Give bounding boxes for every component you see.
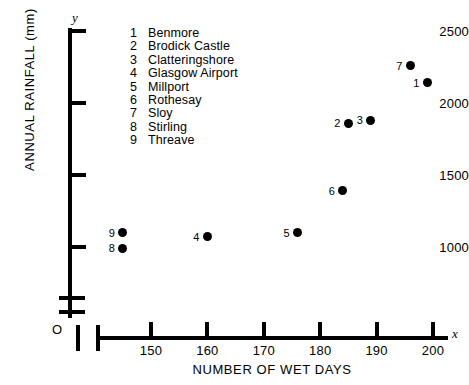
x-tick-label: 190 — [352, 343, 402, 358]
legend-item: 7Sloy — [130, 107, 238, 120]
y-axis-break-lower — [59, 310, 85, 314]
legend-item-key: 1 — [130, 27, 148, 40]
data-point-label: 3 — [357, 114, 366, 126]
legend-item-label: Rothesay — [148, 94, 202, 107]
x-tick-label: 200 — [408, 343, 458, 358]
y-axis-symbol: y — [72, 10, 78, 26]
legend-item: 8Stirling — [130, 121, 238, 134]
data-point-label: 8 — [109, 242, 118, 254]
x-tick — [318, 322, 322, 336]
y-tick — [72, 29, 86, 33]
y-tick-label: 2500 — [405, 24, 469, 39]
y-axis-break-upper — [59, 296, 85, 300]
legend-item-label: Sloy — [148, 107, 173, 120]
legend-item: 5Millport — [130, 81, 238, 94]
y-tick — [72, 173, 86, 177]
y-tick-label: 1500 — [405, 168, 469, 183]
legend-item: 2Brodick Castle — [130, 40, 238, 53]
data-point — [344, 119, 353, 128]
legend-item-label: Glasgow Airport — [148, 67, 238, 80]
origin-label: O — [52, 322, 62, 337]
x-tick — [205, 322, 209, 336]
data-point — [338, 186, 347, 195]
legend-item-label: Clatteringshore — [148, 54, 234, 67]
legend-item-key: 2 — [130, 40, 148, 53]
legend-item-key: 3 — [130, 54, 148, 67]
y-axis-label: ANNUAL RAINFALL (mm) — [22, 0, 37, 185]
legend-item-key: 7 — [130, 107, 148, 120]
data-point-label: 4 — [193, 231, 202, 243]
x-axis-symbol: x — [452, 326, 458, 342]
data-point-label: 9 — [109, 227, 118, 239]
legend-item-key: 5 — [130, 81, 148, 94]
data-point — [293, 228, 302, 237]
legend-item: 6Rothesay — [130, 94, 238, 107]
data-point-label: 5 — [284, 227, 293, 239]
data-point — [406, 61, 415, 70]
y-tick-label: 2000 — [405, 96, 469, 111]
x-axis-break-right — [96, 325, 100, 351]
legend-item: 1Benmore — [130, 27, 238, 40]
legend-item-label: Millport — [148, 81, 189, 94]
x-tick — [375, 322, 379, 336]
y-tick-label: 1000 — [405, 240, 469, 255]
legend-item-key: 4 — [130, 67, 148, 80]
x-axis-break-left — [76, 325, 80, 351]
legend-item: 9Threave — [130, 134, 238, 147]
legend-item: 4Glasgow Airport — [130, 67, 238, 80]
data-point-label: 6 — [329, 185, 338, 197]
x-tick — [262, 322, 266, 336]
x-tick-label: 150 — [126, 343, 176, 358]
x-tick-label: 160 — [182, 343, 232, 358]
data-point-label: 7 — [396, 60, 405, 72]
data-point — [203, 232, 212, 241]
data-point — [118, 244, 127, 253]
x-tick — [149, 322, 153, 336]
legend-item-key: 9 — [130, 134, 148, 147]
x-tick-label: 170 — [239, 343, 289, 358]
x-axis-line — [96, 336, 448, 340]
y-tick — [72, 245, 86, 249]
legend-item-key: 6 — [130, 94, 148, 107]
x-tick-label: 180 — [295, 343, 345, 358]
data-point-label: 1 — [413, 77, 422, 89]
data-point — [423, 78, 432, 87]
data-point — [366, 116, 375, 125]
data-point-label: 2 — [334, 117, 343, 129]
legend-item-key: 8 — [130, 121, 148, 134]
scatter-chart: y 1000150020002500 ANNUAL RAINFALL (mm) … — [0, 0, 469, 385]
legend-item-label: Stirling — [148, 121, 187, 134]
x-tick — [431, 322, 435, 336]
data-point — [118, 228, 127, 237]
legend-item: 3Clatteringshore — [130, 54, 238, 67]
x-axis-label: NUMBER OF WET DAYS — [96, 362, 448, 377]
legend-item-label: Brodick Castle — [148, 40, 230, 53]
legend-item-label: Benmore — [148, 27, 199, 40]
y-tick — [72, 101, 86, 105]
legend: 1Benmore2Brodick Castle3Clatteringshore4… — [130, 27, 238, 148]
legend-item-label: Threave — [148, 134, 195, 147]
